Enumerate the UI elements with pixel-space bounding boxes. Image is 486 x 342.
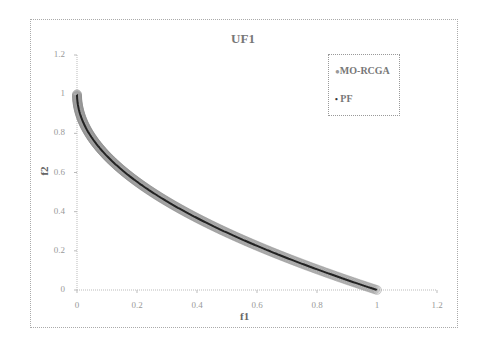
x-tick-label: 0.6 — [242, 300, 272, 310]
y-axis-label: f2 — [38, 166, 50, 175]
plot-area — [0, 0, 486, 342]
dot-marker-icon: • — [335, 95, 338, 104]
x-tick-label: 1.2 — [422, 300, 452, 310]
y-tick-label: 1.2 — [41, 49, 65, 59]
x-tick-label: 0.8 — [302, 300, 332, 310]
series-mo-rcga — [73, 90, 382, 295]
x-axis-label: f1 — [240, 310, 249, 322]
legend-item-pf: • PF — [335, 93, 353, 104]
y-tick-label: 0.2 — [41, 245, 65, 255]
x-tick-label: 0.4 — [182, 300, 212, 310]
x-tick-label: 0 — [62, 300, 92, 310]
y-tick-label: 0.8 — [41, 127, 65, 137]
x-tick-label: 1 — [362, 300, 392, 310]
series-pf — [77, 94, 377, 290]
legend: ●MO-RCGA • PF — [328, 54, 400, 116]
x-tick-label: 0.2 — [122, 300, 152, 310]
y-tick-label: 1 — [41, 88, 65, 98]
y-tick-label: 0.4 — [41, 206, 65, 216]
y-tick-label: 0 — [41, 284, 65, 294]
legend-item-mo-rcga: ●MO-RCGA — [335, 65, 390, 76]
